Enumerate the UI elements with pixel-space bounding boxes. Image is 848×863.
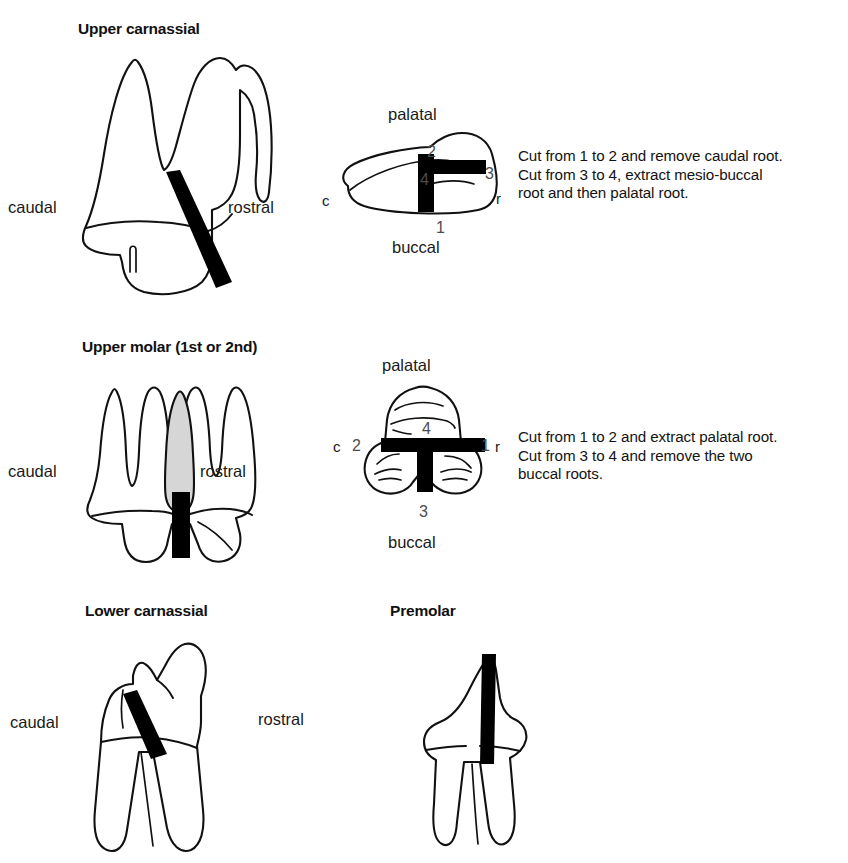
upper-carnassial-caudal-label: caudal bbox=[8, 198, 57, 217]
upper-molar-occlusal-caudal-short: c bbox=[333, 438, 341, 455]
heading-upper-molar: Upper molar (1st or 2nd) bbox=[82, 338, 257, 356]
upper-molar-cut-point-2: 2 bbox=[352, 437, 361, 455]
premolar-lateral-figure bbox=[410, 652, 590, 852]
upper-molar-palatal-label: palatal bbox=[382, 356, 431, 375]
diagram-canvas: Upper carnassial caudal rostral palatal bbox=[0, 0, 848, 863]
upper-carnassial-palatal-label: palatal bbox=[388, 105, 437, 124]
section-upper-carnassial: Upper carnassial caudal rostral palatal bbox=[0, 0, 848, 300]
lower-carnassial-rostral-label: rostral bbox=[258, 710, 304, 729]
upper-carnassial-buccal-label: buccal bbox=[392, 238, 440, 257]
section-upper-molar: Upper molar (1st or 2nd) caudal rostral … bbox=[0, 320, 848, 580]
upper-molar-lateral-figure bbox=[80, 368, 300, 568]
lower-carnassial-caudal-label: caudal bbox=[10, 713, 59, 732]
upper-carnassial-cut-point-2: 2 bbox=[427, 143, 436, 161]
upper-molar-instructions: Cut from 1 to 2 and extract palatal root… bbox=[518, 428, 844, 484]
heading-lower-carnassial: Lower carnassial bbox=[85, 602, 208, 620]
upper-carnassial-rostral-label: rostral bbox=[228, 198, 274, 217]
upper-molar-cut-point-1: 1 bbox=[481, 437, 490, 455]
upper-molar-caudal-label: caudal bbox=[8, 462, 57, 481]
upper-carnassial-cut-point-4: 4 bbox=[420, 171, 429, 189]
heading-premolar: Premolar bbox=[390, 602, 456, 620]
section-premolar: Premolar c r bbox=[390, 580, 690, 863]
upper-molar-occlusal-rostral-short: r bbox=[495, 438, 500, 455]
section-lower-carnassial: Lower carnassial caudal rostral bbox=[0, 580, 424, 863]
upper-carnassial-occlusal-rostral-short: r bbox=[496, 190, 501, 207]
upper-carnassial-occlusal-caudal-short: c bbox=[322, 192, 330, 209]
upper-molar-buccal-label: buccal bbox=[388, 533, 436, 552]
upper-molar-cut-point-3: 3 bbox=[419, 503, 428, 521]
heading-upper-carnassial: Upper carnassial bbox=[78, 20, 200, 38]
upper-carnassial-lateral-figure bbox=[60, 50, 320, 295]
lower-carnassial-lateral-figure bbox=[75, 632, 325, 862]
upper-carnassial-cut-point-1: 1 bbox=[436, 219, 445, 237]
upper-carnassial-instructions: Cut from 1 to 2 and remove caudal root. … bbox=[518, 147, 844, 203]
upper-molar-rostral-label: rostral bbox=[200, 462, 246, 481]
upper-carnassial-cut-point-3: 3 bbox=[485, 165, 494, 183]
upper-molar-cut-point-4: 4 bbox=[422, 420, 431, 438]
upper-molar-occlusal-figure bbox=[355, 380, 515, 505]
